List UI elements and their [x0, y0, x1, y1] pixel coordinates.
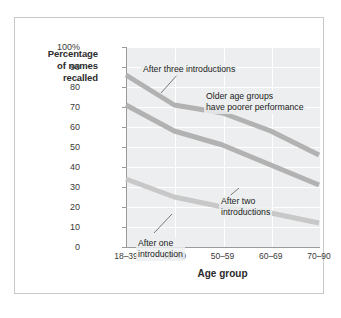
- annotation-older-age-groups: Older age groups have poorer performance: [204, 90, 306, 114]
- gridline-vertical: [320, 47, 321, 247]
- y-axis-tick-label: 10: [40, 222, 80, 232]
- y-axis-tick-label: 70: [40, 102, 80, 112]
- annotation-after-two-introductions: After two introductions: [219, 195, 272, 219]
- x-axis-title: Age group: [126, 268, 319, 279]
- y-axis-tick-label: 40: [40, 162, 80, 172]
- annotation-after-one-introduction: After one introduction: [136, 237, 185, 261]
- y-axis-tick-label: 50: [40, 142, 80, 152]
- x-axis-tick-label: 50–59: [211, 251, 235, 261]
- y-axis-tick-label: 90: [40, 62, 80, 72]
- annotation-leader-line: [154, 214, 172, 233]
- figure-frame: Percentage of names recalled 01020304050…: [14, 17, 324, 294]
- annotation-after-three-introductions: After three introductions: [141, 63, 237, 76]
- x-axis-tick-label: 60–69: [259, 251, 283, 261]
- y-axis-tick-label: 20: [40, 202, 80, 212]
- y-axis-tick-label: 60: [40, 122, 80, 132]
- x-axis-tick-label: 70–90: [307, 251, 331, 261]
- y-axis-tick-label: 30: [40, 182, 80, 192]
- y-axis-tick-label: 100%: [40, 42, 80, 52]
- y-axis-tick-label: 80: [40, 82, 80, 92]
- y-axis-tick-label: 0: [40, 242, 80, 252]
- y-axis-tick-mark: [122, 247, 126, 248]
- annotation-leader-line: [161, 74, 178, 93]
- x-axis-tick-label: 18–39: [114, 251, 138, 261]
- series-line: [126, 105, 319, 185]
